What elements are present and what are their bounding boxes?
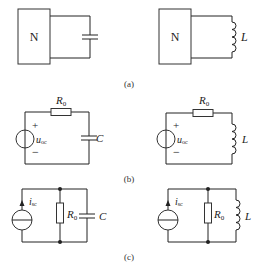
inductor-label: L [244, 210, 251, 222]
inductor-icon [232, 22, 236, 52]
resistor-label: R0 [55, 94, 67, 108]
resistor-label: R0 [66, 208, 78, 222]
source-label: uoc [177, 134, 188, 145]
resistor-label: R0 [198, 94, 210, 108]
circuit-b-left: R0 + − uoc C [16, 94, 104, 164]
circuit-c-left: isc R0 C [12, 187, 107, 244]
capacitor-label: C [96, 132, 104, 144]
network-label: N [171, 30, 180, 44]
panel-c: isc R0 C isc R0 L (c) [12, 187, 251, 262]
inductor-label: L [240, 30, 248, 44]
inductor-icon [232, 124, 236, 154]
resistor-icon [51, 109, 71, 116]
panel-b: R0 + − uoc C R0 + − uoc L (b) [16, 94, 248, 184]
resistor-icon [57, 203, 64, 223]
wire [168, 189, 236, 242]
resistor-icon [205, 203, 212, 223]
arrow-up-icon [166, 200, 171, 206]
source-label: uoc [36, 134, 47, 145]
panel-caption: (b) [124, 174, 135, 184]
junction-dot [206, 187, 210, 191]
plus-sign: + [173, 119, 179, 131]
inductor-label: L [241, 133, 248, 145]
arrow-up-icon [20, 200, 25, 206]
capacitor-icon [82, 35, 98, 39]
source-label: isc [29, 196, 37, 207]
resistor-label: R0 [213, 208, 225, 222]
capacitor-icon [79, 214, 95, 218]
circuit-b-right: R0 + − uoc L [157, 94, 248, 164]
circuit-c-right: isc R0 L [158, 187, 251, 244]
circuit-figure: N N L (a) R0 + − uo [0, 0, 259, 273]
panel-caption: (c) [124, 252, 134, 262]
junction-dot [58, 240, 62, 244]
minus-sign: − [173, 145, 180, 159]
current-source-icon [12, 210, 32, 230]
wire [191, 16, 232, 58]
capacitor-icon [81, 136, 97, 140]
panel-a: N N L (a) [18, 9, 248, 89]
source-label: isc [175, 196, 183, 207]
circuit-a-right: N L [159, 9, 248, 64]
resistor-icon [193, 110, 213, 117]
capacitor-label: C [99, 210, 107, 222]
current-source-icon [158, 210, 178, 230]
plus-sign: + [32, 119, 38, 131]
panel-caption: (a) [124, 79, 134, 89]
network-label: N [30, 30, 39, 44]
minus-sign: − [32, 145, 39, 159]
inductor-icon [236, 200, 240, 230]
junction-dot [206, 240, 210, 244]
circuit-a-left: N [18, 9, 98, 64]
wire [50, 16, 90, 58]
junction-dot [58, 187, 62, 191]
